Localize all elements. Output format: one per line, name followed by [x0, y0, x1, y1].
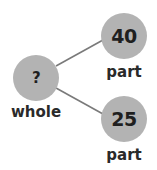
part-1-value: 40 [111, 25, 136, 47]
part-whole-diagram: ? whole 40 part 25 part [0, 0, 157, 170]
whole-value: ? [32, 69, 40, 87]
part-2-label: part [94, 146, 154, 164]
part-circle-2: 25 [101, 96, 147, 142]
part-1-label: part [94, 63, 154, 81]
part-2-value: 25 [111, 108, 136, 130]
part-circle-1: 40 [101, 13, 147, 59]
whole-label: whole [6, 103, 66, 121]
whole-circle: ? [13, 55, 59, 101]
